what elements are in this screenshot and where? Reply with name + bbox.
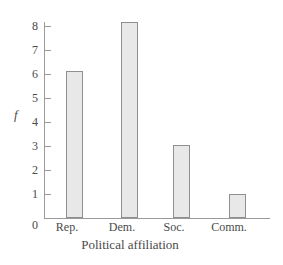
bar-dem [121, 22, 138, 218]
y-tick-label-text: 6 [24, 68, 38, 80]
plot-area [44, 22, 270, 218]
x-axis-title: Political affiliation [0, 238, 260, 252]
bar-rep [66, 71, 83, 218]
x-axis-line [44, 218, 270, 219]
y-tick-label: 8 [24, 20, 38, 32]
bar-comm [229, 194, 246, 219]
x-tick-label-rep: Rep. [49, 221, 85, 234]
y-tick-label-text: 3 [24, 140, 38, 152]
y-tick-label: 3 [24, 140, 38, 152]
y-tick-label-text: 1 [24, 188, 38, 200]
y-tick-label-text: 7 [24, 44, 38, 56]
y-tick-label: 2 [24, 164, 38, 176]
y-tick-label-text: 4 [24, 116, 38, 128]
y-tick-label-text: 8 [24, 20, 38, 32]
y-axis-title: f [14, 108, 18, 121]
y-tick-label: 1 [24, 188, 38, 200]
x-tick-label-comm: Comm. [207, 221, 251, 234]
bar-soc [173, 145, 190, 219]
y-tick-label: 7 [24, 44, 38, 56]
y-tick-label-text: 2 [24, 164, 38, 176]
origin-label: 0 [24, 219, 38, 231]
y-tick-label-text: 5 [24, 92, 38, 104]
y-tick-label: 4 [24, 116, 38, 128]
y-tick-label: 5 [24, 92, 38, 104]
y-tick-label: 6 [24, 68, 38, 80]
x-tick-label-soc: Soc. [156, 221, 192, 234]
x-tick-label-dem: Dem. [103, 221, 141, 234]
bar-chart: f 8 7 6 5 4 3 2 1 [0, 0, 283, 265]
